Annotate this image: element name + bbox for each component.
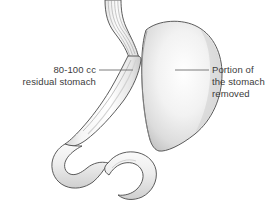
- duodenum: [105, 152, 157, 200]
- residual-stomach-label-line-2: residual stomach: [0, 76, 96, 88]
- residual-stomach-label: 80-100 cc residual stomach: [0, 64, 96, 88]
- removed-portion-label-line-3: removed: [212, 88, 276, 100]
- removed-portion-label-line-1: Portion of: [212, 64, 276, 76]
- sleeve-gastrectomy-figure: 80-100 cc residual stomach Portion of th…: [0, 0, 276, 222]
- gastric-antrum: [52, 144, 108, 188]
- residual-stomach-label-line-1: 80-100 cc: [0, 64, 96, 76]
- anatomy-illustration: [0, 0, 276, 222]
- resected-stomach-portion: [142, 21, 222, 151]
- esophagus: [105, 0, 139, 58]
- removed-portion-label-line-2: the stomach: [212, 76, 276, 88]
- removed-portion-label: Portion of the stomach removed: [212, 64, 276, 100]
